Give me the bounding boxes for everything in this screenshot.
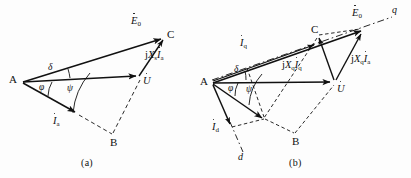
power-factor-angle-arc-a [48,82,52,96]
q-axis-label-b: q [392,5,397,15]
emf-phasor-label-a: E0 [131,16,141,28]
d-axis-current-label-b: Id [212,122,219,134]
q-reactance-drop-q-current-label-b: jXqIq [282,60,302,72]
diagram-b-group [212,17,392,152]
dashed-construction-b-to-u-a [113,80,140,133]
power-angle-arc-a [68,69,70,78]
caption-b: (b) [289,158,302,168]
q-reactance-drop-armature-current-label-b: jXqIa [351,54,370,66]
q-reactance-drop-q-current-line-b [319,38,334,80]
emf-phasor-label-b: E0 [352,8,362,20]
vertex-label-c-diagram-a: C [167,29,174,40]
vertex-label-c-diagram-b: C [311,24,318,35]
dashed-ia-to-b-b [265,119,294,133]
vertex-label-b-diagram-b: B [292,136,299,147]
q-axis-current-label-b: Iq [240,38,247,50]
power-factor-angle-label-a: φ [39,83,44,93]
d-axis-line-b [230,122,243,152]
internal-angle-label-b: ψ [246,85,252,95]
dashed-b-to-u-b [295,85,334,133]
phasor-diagram-figure: A C B E0 U jXsIa Ia δ φ ψ (a) A C B E0 q… [0,0,411,178]
internal-angle-label-a: ψ [67,84,73,94]
phasor-vector-canvas [0,0,411,178]
dashed-id-to-ia-b [232,119,264,127]
reactance-drop-label-a: jXsIa [145,50,164,62]
caption-a: (a) [81,158,93,168]
q-axis-line-b [212,17,392,80]
power-factor-angle-label-b: φ [228,84,233,94]
dashed-current-extension-a [79,115,112,134]
power-angle-label-b: δ [234,65,238,75]
vertex-label-a-diagram-a: A [9,74,17,85]
power-angle-label-a: δ [48,63,52,73]
terminal-voltage-label-b: U [337,84,345,95]
terminal-voltage-label-a: U [143,76,151,87]
vertex-label-b-diagram-a: B [110,137,117,148]
power-factor-angle-arc-b [235,83,238,96]
vertex-label-a-diagram-b: A [200,76,208,87]
d-axis-label-b: d [238,152,243,162]
dashed-c-to-ia-b [264,38,317,118]
armature-current-label-a: Ia [53,116,60,128]
emf-phasor-line-a [23,39,161,82]
